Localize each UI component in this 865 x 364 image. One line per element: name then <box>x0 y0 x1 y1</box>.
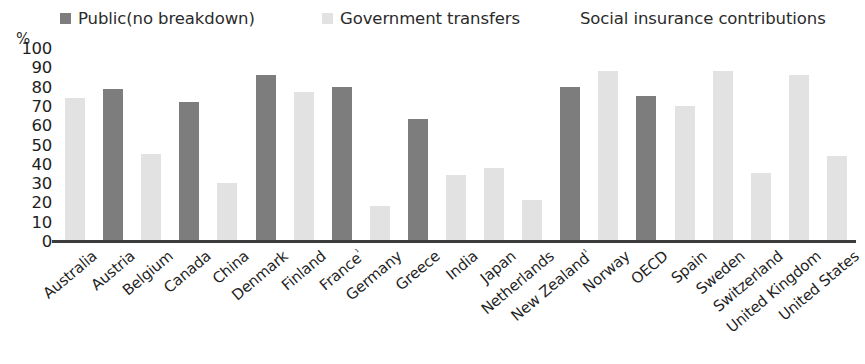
bar-oecd <box>636 96 656 241</box>
x-axis-labels: AustraliaAustriaBelgiumCanadaChinaDenmar… <box>0 241 865 364</box>
bar-france <box>332 87 352 241</box>
y-axis-tick: 70 <box>6 96 52 115</box>
legend-entry-public: Public(no breakdown) <box>60 6 255 30</box>
bar-unitedkingdom <box>789 75 809 241</box>
bar-greece <box>408 119 428 241</box>
bar-belgium <box>141 154 161 241</box>
bar-germany <box>370 206 390 241</box>
y-axis-tick: 30 <box>6 174 52 193</box>
legend-label-public: Public(no breakdown) <box>78 9 255 28</box>
plot-area <box>56 48 856 241</box>
legend-swatch-government-transfers <box>322 13 333 24</box>
y-axis-tick: 20 <box>6 193 52 212</box>
bar-unitedstates <box>827 156 847 241</box>
bar-sweden <box>713 71 733 241</box>
bar-netherlands <box>522 200 542 241</box>
bar-chart: Public(no breakdown) Government transfer… <box>0 0 865 364</box>
y-axis-tick: 80 <box>6 77 52 96</box>
bar-switzerland <box>751 173 771 241</box>
y-axis-tick: 100 <box>6 39 52 58</box>
y-axis-tick: 10 <box>6 212 52 231</box>
bar-norway <box>598 71 618 241</box>
bar-canada <box>179 102 199 241</box>
bar-china <box>217 183 237 241</box>
y-axis-tick: 50 <box>6 135 52 154</box>
legend-label-government-transfers: Government transfers <box>340 9 520 28</box>
bar-finland <box>294 92 314 241</box>
y-axis-tick: 40 <box>6 154 52 173</box>
bar-newzealand <box>560 87 580 241</box>
bar-austria <box>103 89 123 241</box>
y-axis-tick: 60 <box>6 116 52 135</box>
bar-australia <box>65 98 85 241</box>
bar-japan <box>484 168 504 241</box>
chart-legend: Public(no breakdown) Government transfer… <box>0 6 865 30</box>
bar-spain <box>675 106 695 241</box>
legend-entry-social-insurance: Social insurance contributions <box>580 6 826 30</box>
bar-denmark <box>256 75 276 241</box>
legend-label-social-insurance: Social insurance contributions <box>580 9 826 28</box>
bar-india <box>446 175 466 241</box>
legend-swatch-public <box>60 13 71 24</box>
legend-entry-government-transfers: Government transfers <box>322 6 520 30</box>
y-axis-tick: 90 <box>6 58 52 77</box>
